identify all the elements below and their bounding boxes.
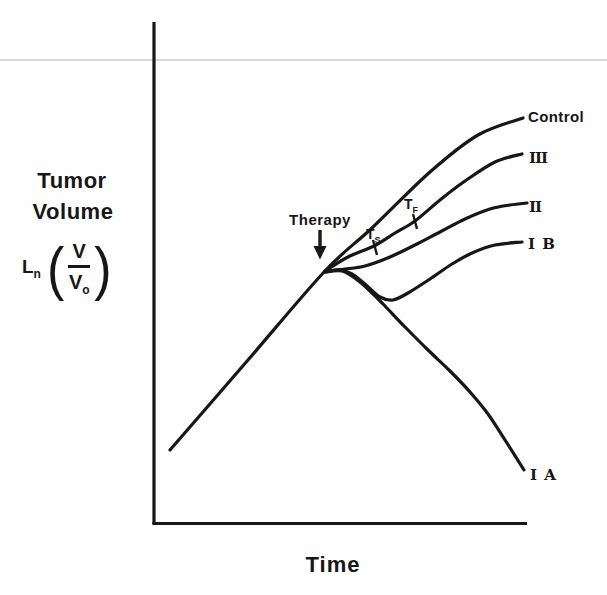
formula-ln: Ln <box>22 256 41 281</box>
curve-label-ia: I A <box>530 466 557 484</box>
curve-i-a <box>325 271 524 470</box>
formula-denominator: Vo <box>69 272 90 296</box>
y-axis-label-line2: Volume <box>28 199 118 225</box>
marker-ts: TS <box>366 226 381 245</box>
curve-iii <box>325 154 522 271</box>
therapy-arrow-head <box>314 246 327 260</box>
curve-label-iii: III <box>529 149 547 167</box>
curve-i-b <box>325 242 522 300</box>
curve-control <box>170 118 523 450</box>
curve-label-ib: I B <box>528 235 556 253</box>
x-axis-label: Time <box>300 552 366 578</box>
formula-fraction-bar <box>68 265 90 268</box>
formula-close-paren: ) <box>94 227 111 310</box>
marker-tf: TF <box>404 196 418 215</box>
y-axis-label-line1: Tumor <box>34 168 110 194</box>
formula-open-paren: ( <box>47 227 64 310</box>
tumor-growth-figure: Tumor Volume Ln ( V Vo ) Therapy TS TF C… <box>0 0 607 595</box>
formula-fraction: V Vo <box>68 241 90 296</box>
curve-label-ii: II <box>529 198 541 216</box>
therapy-annotation: Therapy <box>288 211 352 228</box>
y-axis-formula: Ln ( V Vo ) <box>22 232 112 304</box>
curve-label-control: Control <box>528 108 584 125</box>
growth-curves <box>170 118 527 470</box>
formula-numerator: V <box>73 241 86 261</box>
